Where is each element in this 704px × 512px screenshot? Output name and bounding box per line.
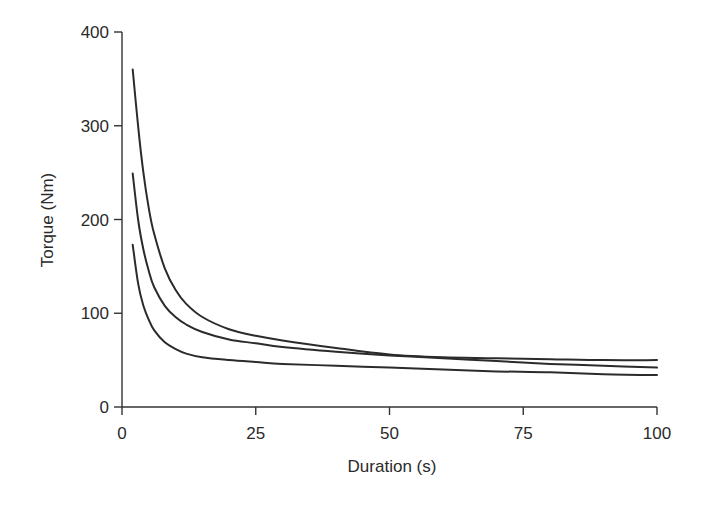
chart: 0100200300400 Torque (Nm) 0255075100 Dur… — [0, 0, 704, 512]
x-axis-title: Duration (s) — [348, 457, 437, 476]
x-tick-label: 100 — [643, 424, 671, 443]
y-tick-label: 200 — [81, 211, 109, 230]
curve-middle — [133, 174, 657, 368]
y-axis-title: Torque (Nm) — [38, 173, 57, 267]
x-tick-label: 75 — [514, 424, 533, 443]
y-tick-label: 300 — [81, 117, 109, 136]
plot-area — [133, 70, 657, 376]
y-tick-label: 400 — [81, 23, 109, 42]
y-tick-label: 100 — [81, 304, 109, 323]
y-axis: 0100200300400 Torque (Nm) — [38, 23, 122, 417]
x-tick-label: 25 — [246, 424, 265, 443]
x-tick-label: 0 — [117, 424, 126, 443]
x-axis: 0255075100 Duration (s) — [117, 407, 671, 476]
curve-upper — [133, 70, 657, 361]
y-tick-label: 0 — [100, 398, 109, 417]
x-tick-label: 50 — [380, 424, 399, 443]
